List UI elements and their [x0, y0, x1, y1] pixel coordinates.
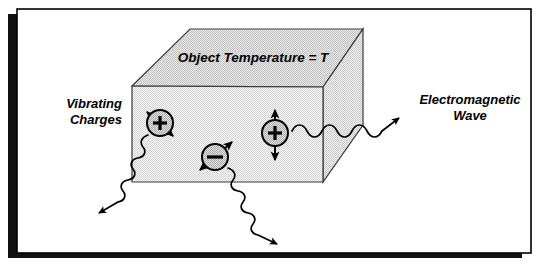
positive-charge-left	[147, 110, 173, 136]
object-temperature-label: Object Temperature = T	[178, 50, 330, 65]
electromagnetic-wave-label-line1: Electromagnetic	[419, 92, 521, 107]
electromagnetic-wave-label-line2: Wave	[453, 108, 487, 123]
vibrating-charges-label-line1: Vibrating	[66, 96, 122, 111]
positive-charge-right	[262, 120, 288, 146]
vibrating-charges-label-line2: Charges	[70, 112, 122, 127]
thermal-radiation-figure: Object Temperature = T Vibrating Charges…	[0, 0, 540, 265]
diagram-canvas: Object Temperature = T Vibrating Charges…	[0, 0, 540, 265]
negative-charge-center	[202, 144, 228, 170]
